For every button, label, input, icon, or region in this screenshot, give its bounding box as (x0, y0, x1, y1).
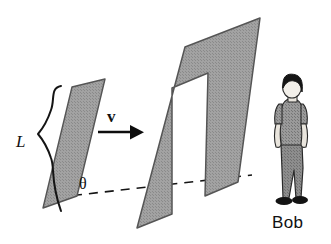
velocity-label: v (107, 108, 116, 125)
velocity-arrow (98, 125, 144, 140)
diagram-canvas (0, 0, 331, 244)
slotted-plate (137, 18, 260, 228)
length-label: L (16, 133, 25, 150)
observer-figure (275, 74, 309, 205)
physics-diagram: L θ v Bob (0, 0, 331, 244)
shoe-right (292, 196, 308, 204)
shoe-left (276, 197, 293, 205)
observer-name-label: Bob (272, 214, 303, 231)
angle-label: θ (79, 176, 87, 192)
